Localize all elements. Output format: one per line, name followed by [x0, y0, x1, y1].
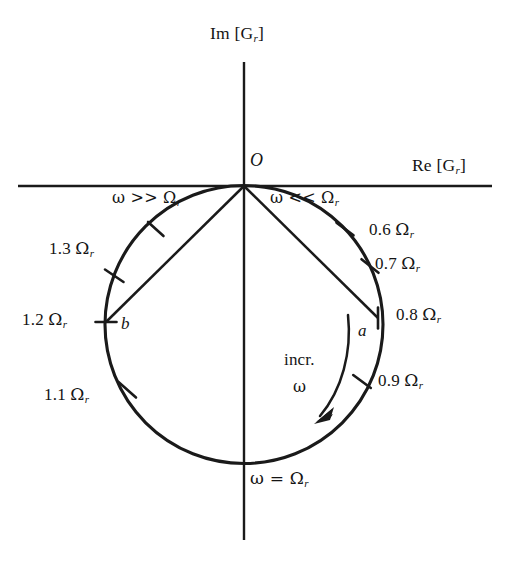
tick-label-0-7-value: 0.7 [375, 254, 397, 273]
tick-0-6 [337, 223, 354, 236]
nyquist-figure: Im [Gr] Re [Gr] O ω >> Ωr ω << Ωr 0.6 Ωr… [0, 0, 510, 580]
tick-label-1-2-subscript: r [63, 318, 68, 330]
omega-equals-subscript: r [304, 477, 309, 489]
omega-much-less-text: ω << Ω [270, 188, 335, 207]
imaginary-axis-label: Im [Gr] [210, 25, 264, 44]
omega-much-less-subscript: r [335, 196, 340, 208]
tick-label-1-3-value: 1.3 [49, 239, 71, 258]
incr-omega-label-line1: incr. [284, 351, 315, 368]
tick-label-1-1: 1.1 Ωr [44, 386, 89, 405]
tick-label-0-9: 0.9 Ωr [378, 372, 423, 391]
frequency-tick-marks [96, 222, 379, 398]
point-b-label: b [121, 315, 130, 332]
tick-label-1-3-subscript: r [90, 247, 95, 259]
omega-much-greater-label: ω >> Ωr [112, 190, 181, 208]
incr-omega-arrow [314, 315, 349, 424]
tick-label-0-6-value: 0.6 [369, 220, 391, 239]
tick-label-0-8-unit: Ω [422, 304, 436, 324]
tick-label-0-6-unit: Ω [395, 219, 409, 239]
tick-0-9 [353, 375, 371, 388]
tick-label-1-1-value: 1.1 [44, 385, 66, 404]
tick-label-0-9-subscript: r [419, 379, 424, 391]
incr-omega-label-line2: ω [293, 379, 306, 395]
re-label-close: ] [460, 155, 466, 175]
tick-label-0-9-unit: Ω [404, 370, 418, 390]
tick-label-0-8: 0.8 Ωr [396, 306, 441, 325]
nyquist-plot-canvas [0, 0, 510, 580]
tick-label-1-2-value: 1.2 [22, 310, 44, 329]
tick-label-0-7-unit: Ω [401, 253, 415, 273]
im-label-text: Im [G [210, 23, 253, 43]
tick-label-1-2-unit: Ω [48, 309, 62, 329]
tick-label-1-2: 1.2 Ωr [22, 311, 67, 330]
tick-upper-left [148, 222, 164, 236]
incr-omega-arrow-curve [320, 315, 349, 416]
tick-label-0-8-value: 0.8 [396, 305, 418, 324]
im-label-close: ] [258, 23, 264, 43]
tick-label-1-3: 1.3 Ωr [49, 240, 94, 259]
re-label-text: Re [G [412, 155, 455, 175]
real-axis-label: Re [Gr] [412, 157, 466, 176]
tick-label-0-8-subscript: r [437, 313, 442, 325]
omega-equals-text: ω = Ω [250, 468, 304, 488]
omega-equals-label: ω = Ωr [250, 470, 309, 489]
point-a-label: a [358, 322, 367, 339]
omega-much-less-label: ω << Ωr [270, 190, 339, 208]
tick-label-0-7-subscript: r [416, 262, 421, 274]
omega-much-greater-subscript: r [177, 196, 182, 208]
tick-label-0-9-value: 0.9 [378, 371, 400, 390]
tick-label-0-7: 0.7 Ωr [375, 255, 420, 274]
tick-label-0-6: 0.6 Ωr [369, 221, 414, 240]
tick-label-1-3-unit: Ω [75, 238, 89, 258]
tick-label-1-1-subscript: r [85, 393, 90, 405]
origin-label: O [250, 151, 263, 169]
tick-label-0-6-subscript: r [410, 228, 415, 240]
tick-label-1-1-unit: Ω [70, 384, 84, 404]
omega-much-greater-text: ω >> Ω [112, 188, 177, 207]
